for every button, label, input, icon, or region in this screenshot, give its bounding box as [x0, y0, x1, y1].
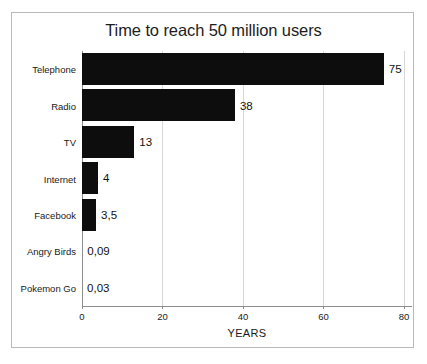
- bar-row[interactable]: 3,5: [82, 197, 412, 233]
- bar-row[interactable]: 0,09: [82, 233, 412, 269]
- bar[interactable]: [82, 199, 96, 231]
- bar-value-label: 75: [384, 63, 402, 75]
- x-tick-label-20: 20: [157, 311, 168, 322]
- category-label-pokemon-go: Pokemon Go: [0, 282, 76, 293]
- bar[interactable]: [82, 126, 134, 158]
- bar-value-label: 4: [98, 172, 109, 184]
- x-tick-mark-40: [243, 306, 244, 309]
- bar-value-label: 13: [134, 136, 152, 148]
- x-tick-label-0: 0: [79, 311, 84, 322]
- x-tick-mark-80: [404, 306, 405, 309]
- bar-row[interactable]: 75: [82, 51, 412, 87]
- bar[interactable]: [82, 162, 98, 194]
- category-label-internet: Internet: [0, 173, 76, 184]
- bar-value-label: 0,03: [82, 282, 109, 294]
- category-label-telephone: Telephone: [0, 64, 76, 75]
- x-tick-mark-20: [162, 306, 163, 309]
- x-tick-label-60: 60: [318, 311, 329, 322]
- x-axis-line: [82, 306, 412, 307]
- bar-value-label: 0,09: [82, 245, 109, 257]
- x-tick-label-40: 40: [238, 311, 249, 322]
- category-label-radio: Radio: [0, 100, 76, 111]
- x-axis-title: YEARS: [82, 327, 412, 339]
- bar[interactable]: [82, 53, 384, 85]
- bar[interactable]: [82, 89, 235, 121]
- x-tick-label-80: 80: [399, 311, 410, 322]
- x-tick-mark-0: [82, 306, 83, 309]
- bar-row[interactable]: 13: [82, 124, 412, 160]
- bar-row[interactable]: 0,03: [82, 270, 412, 306]
- category-label-angry-birds: Angry Birds: [0, 246, 76, 257]
- chart-title: Time to reach 50 million users: [12, 21, 415, 40]
- category-label-facebook: Facebook: [0, 209, 76, 220]
- bar-row[interactable]: 38: [82, 87, 412, 123]
- chart-card: Time to reach 50 million users 75381343,…: [11, 12, 414, 348]
- x-tick-mark-60: [323, 306, 324, 309]
- bar-value-label: 38: [235, 100, 253, 112]
- bar-row[interactable]: 4: [82, 160, 412, 196]
- category-label-tv: TV: [0, 137, 76, 148]
- bar-value-label: 3,5: [96, 209, 117, 221]
- plot-area: 75381343,50,090,03: [82, 51, 412, 306]
